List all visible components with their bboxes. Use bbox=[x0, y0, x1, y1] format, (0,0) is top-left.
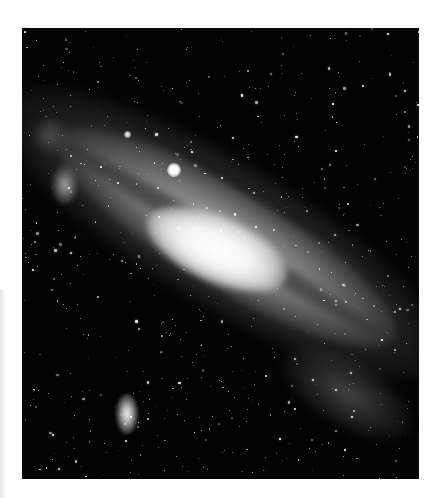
star bbox=[373, 305, 375, 307]
star bbox=[85, 476, 86, 477]
star bbox=[265, 470, 266, 471]
star bbox=[335, 333, 336, 334]
star bbox=[381, 311, 382, 312]
star bbox=[106, 452, 107, 453]
star bbox=[59, 243, 61, 245]
star bbox=[399, 448, 400, 449]
star bbox=[286, 193, 287, 194]
star bbox=[352, 244, 353, 245]
star bbox=[164, 418, 165, 419]
star bbox=[318, 242, 320, 244]
star bbox=[205, 439, 207, 441]
star bbox=[187, 86, 188, 87]
star bbox=[181, 356, 182, 357]
star bbox=[382, 285, 383, 286]
star bbox=[398, 198, 399, 199]
star bbox=[344, 333, 346, 335]
star bbox=[161, 378, 162, 379]
star bbox=[88, 334, 89, 335]
star bbox=[198, 93, 199, 94]
star bbox=[135, 77, 137, 79]
star bbox=[386, 241, 387, 242]
star bbox=[164, 440, 165, 441]
star bbox=[353, 383, 354, 384]
star bbox=[380, 215, 381, 216]
star bbox=[315, 384, 316, 385]
star bbox=[208, 296, 209, 297]
star bbox=[207, 469, 208, 470]
star bbox=[218, 423, 220, 425]
star bbox=[402, 421, 403, 422]
star bbox=[53, 106, 54, 107]
star bbox=[330, 38, 331, 39]
star bbox=[217, 127, 218, 128]
star bbox=[147, 418, 149, 420]
star bbox=[206, 207, 208, 209]
star bbox=[336, 122, 337, 123]
star bbox=[187, 47, 188, 48]
star bbox=[71, 396, 72, 397]
page-edge-shading bbox=[0, 290, 6, 498]
star bbox=[202, 369, 204, 371]
star bbox=[265, 457, 266, 458]
star bbox=[137, 49, 138, 50]
star bbox=[234, 397, 235, 398]
star bbox=[90, 431, 91, 432]
star bbox=[359, 61, 360, 62]
star bbox=[272, 348, 273, 349]
star bbox=[321, 168, 323, 170]
star bbox=[317, 394, 318, 395]
star bbox=[411, 304, 413, 306]
star bbox=[58, 134, 59, 135]
star bbox=[172, 397, 173, 398]
star bbox=[177, 227, 179, 229]
star bbox=[198, 458, 199, 459]
star bbox=[32, 269, 34, 271]
star bbox=[366, 319, 368, 321]
star bbox=[381, 404, 382, 405]
star bbox=[408, 323, 409, 324]
star bbox=[219, 210, 221, 212]
star bbox=[127, 371, 128, 372]
star bbox=[389, 73, 391, 75]
star bbox=[82, 205, 83, 206]
star bbox=[26, 47, 27, 48]
star bbox=[238, 249, 240, 251]
star bbox=[379, 368, 381, 370]
star bbox=[277, 288, 278, 289]
star bbox=[251, 31, 252, 32]
star bbox=[284, 154, 285, 155]
star bbox=[405, 173, 406, 174]
star bbox=[345, 301, 347, 303]
star bbox=[408, 139, 410, 141]
star bbox=[142, 445, 143, 446]
star bbox=[371, 78, 372, 79]
star bbox=[335, 92, 336, 93]
star bbox=[177, 279, 179, 281]
star bbox=[289, 334, 290, 335]
star bbox=[136, 147, 137, 148]
star bbox=[296, 113, 297, 114]
star bbox=[65, 39, 67, 41]
star bbox=[381, 339, 383, 341]
star bbox=[76, 169, 77, 170]
star bbox=[168, 128, 169, 129]
foreground-star bbox=[124, 131, 131, 138]
star bbox=[100, 336, 101, 337]
star bbox=[251, 326, 252, 327]
star bbox=[68, 187, 70, 189]
star bbox=[295, 316, 296, 317]
star bbox=[343, 214, 344, 215]
star bbox=[52, 187, 53, 188]
star bbox=[25, 253, 26, 254]
star bbox=[335, 389, 338, 392]
star bbox=[43, 65, 44, 66]
star bbox=[84, 164, 85, 165]
star bbox=[283, 246, 284, 247]
star bbox=[153, 284, 154, 285]
star bbox=[131, 460, 132, 461]
star bbox=[291, 385, 293, 387]
star bbox=[356, 224, 358, 226]
star bbox=[334, 234, 336, 236]
star bbox=[309, 448, 310, 449]
